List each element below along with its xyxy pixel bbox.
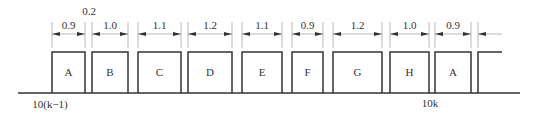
- period-start-label: 10(k−1): [32, 98, 68, 111]
- arrow-right-icon: [120, 32, 128, 36]
- arrow-right-icon: [224, 32, 232, 36]
- duration-label: 1.0: [103, 19, 117, 31]
- job-label: A: [65, 66, 73, 78]
- period-end-label: 10k: [422, 97, 439, 109]
- arrow-left-icon: [292, 32, 300, 36]
- arrow-left-icon: [92, 32, 100, 36]
- partial-job-box: [478, 52, 502, 93]
- arrow-right-icon: [315, 32, 323, 36]
- duration-label: 1.0: [403, 19, 417, 31]
- arrow-right-icon: [173, 32, 181, 36]
- job-label: D: [206, 66, 214, 78]
- duration-label: 0.9: [301, 19, 315, 31]
- arrow-left-icon: [138, 32, 146, 36]
- arrow-right-icon: [77, 32, 85, 36]
- job-label: C: [156, 66, 163, 78]
- duration-label: 1.1: [153, 19, 167, 31]
- duration-label: 0.9: [446, 19, 460, 31]
- arrow-left-icon: [333, 32, 341, 36]
- arrow-right-icon: [274, 32, 282, 36]
- job-label: A: [449, 66, 457, 78]
- arrow-right-icon: [374, 32, 382, 36]
- arrow-left-icon: [188, 32, 196, 36]
- timeline-svg: A0.9B1.0C1.1D1.2E1.1F0.9G1.2H1.0A0.90.21…: [0, 0, 533, 115]
- job-label: G: [354, 66, 362, 78]
- arrow-left-icon: [52, 32, 60, 36]
- gap-label: 0.2: [82, 5, 96, 17]
- duration-label: 1.1: [255, 19, 269, 31]
- job-label: B: [106, 66, 113, 78]
- job-label: F: [304, 66, 310, 78]
- job-label: H: [406, 66, 414, 78]
- arrow-left-icon: [242, 32, 250, 36]
- arrow-left-icon: [478, 32, 486, 36]
- arrow-left-icon: [435, 32, 443, 36]
- duration-label: 1.2: [203, 19, 217, 31]
- timeline-diagram: A0.9B1.0C1.1D1.2E1.1F0.9G1.2H1.0A0.90.21…: [0, 0, 533, 115]
- job-label: E: [259, 66, 266, 78]
- arrow-right-icon: [421, 32, 429, 36]
- duration-label: 0.9: [62, 19, 76, 31]
- arrow-left-icon: [390, 32, 398, 36]
- arrow-right-icon: [463, 32, 471, 36]
- duration-label: 1.2: [351, 19, 365, 31]
